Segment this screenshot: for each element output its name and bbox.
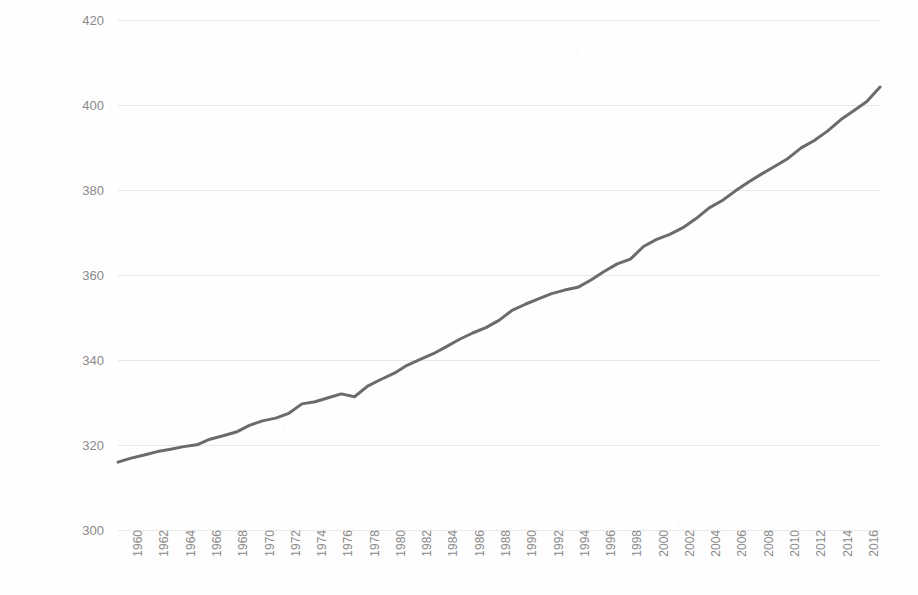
co2-series-polyline [118, 87, 880, 462]
x-tick-label-2008: 2008 [762, 530, 776, 557]
y-tick-label-320: 320 [60, 438, 104, 453]
x-tick-label-1968: 1968 [236, 530, 250, 557]
y-tick-label-420: 420 [60, 13, 104, 28]
y-tick-label-300: 300 [60, 523, 104, 538]
chart-figure: Concentration of atmospheric CO2 (parts … [0, 0, 918, 595]
y-axis-tick-labels: 420400380360340320300 [60, 0, 104, 595]
x-tick-label-1982: 1982 [420, 530, 434, 557]
plot-area [118, 20, 880, 530]
x-tick-label-2004: 2004 [709, 530, 723, 557]
x-tick-label-1962: 1962 [157, 530, 171, 557]
x-tick-label-1990: 1990 [525, 530, 539, 557]
x-tick-label-1976: 1976 [341, 530, 355, 557]
x-tick-label-1980: 1980 [394, 530, 408, 557]
x-tick-label-2002: 2002 [683, 530, 697, 557]
co2-series-line [118, 20, 880, 530]
x-tick-label-2016: 2016 [867, 530, 881, 557]
x-tick-label-1986: 1986 [473, 530, 487, 557]
x-axis-tick-labels: 1960196219641966196819701972197419761978… [118, 530, 880, 595]
x-tick-label-2012: 2012 [814, 530, 828, 557]
y-tick-label-400: 400 [60, 98, 104, 113]
x-tick-label-1970: 1970 [263, 530, 277, 557]
y-tick-label-360: 360 [60, 268, 104, 283]
x-tick-label-2014: 2014 [841, 530, 855, 557]
x-tick-label-1998: 1998 [630, 530, 644, 557]
x-tick-label-1964: 1964 [184, 530, 198, 557]
y-tick-label-340: 340 [60, 353, 104, 368]
x-tick-label-1974: 1974 [315, 530, 329, 557]
x-tick-label-1966: 1966 [210, 530, 224, 557]
x-tick-label-2000: 2000 [657, 530, 671, 557]
x-tick-label-1994: 1994 [578, 530, 592, 557]
x-tick-label-2006: 2006 [735, 530, 749, 557]
x-tick-label-1984: 1984 [446, 530, 460, 557]
x-tick-label-2010: 2010 [788, 530, 802, 557]
x-tick-label-1996: 1996 [604, 530, 618, 557]
x-tick-label-1960: 1960 [131, 530, 145, 557]
x-tick-label-1972: 1972 [289, 530, 303, 557]
x-tick-label-1978: 1978 [368, 530, 382, 557]
x-tick-label-1992: 1992 [552, 530, 566, 557]
x-tick-label-1988: 1988 [499, 530, 513, 557]
y-tick-label-380: 380 [60, 183, 104, 198]
